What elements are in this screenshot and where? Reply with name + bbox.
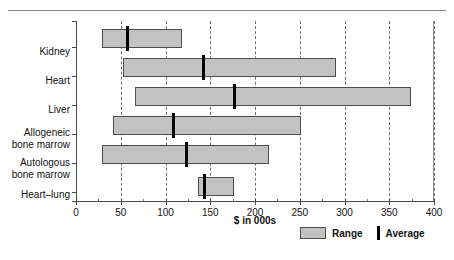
x-tick-350 [389,199,390,205]
x-tick-minor-125 [188,199,189,202]
x-tick-minor-275 [322,199,323,202]
y-tick-2 [72,76,77,77]
average-marker [126,26,129,51]
chart-figure: Kidney Heart Liver Allogeneic bone marro… [0,0,454,260]
x-tick-minor-75 [143,199,144,202]
y-label-allogeneic-line2: bone marrow [12,139,70,151]
y-label-heart-lung: Heart–lung [21,189,70,201]
range-bar [123,58,335,77]
x-tick-0 [76,199,77,205]
y-axis-category-labels: Kidney Heart Liver Allogeneic bone marro… [0,21,74,201]
x-tick-250 [300,199,301,205]
legend-average-marker [377,226,380,240]
y-tick-6 [72,192,77,193]
y-tick-3 [72,105,77,106]
plot-area: 050100150200250300350400 [76,21,434,201]
gridline-100 [166,21,167,201]
range-bar [113,116,301,135]
y-label-allogeneic-line1: Allogeneic [12,127,70,139]
x-tick-100 [166,199,167,205]
average-marker [202,55,205,80]
legend-range-label: Range [332,228,363,239]
gridline-350 [389,21,390,201]
y-axis-line [76,21,77,201]
y-label-kidney-line1: Kidney [39,46,70,57]
top-divider-rule [8,10,446,11]
x-tick-200 [255,199,256,205]
average-marker [203,174,206,199]
x-tick-minor-325 [367,199,368,202]
chart-legend: Range Average [300,226,425,240]
x-tick-minor-375 [412,199,413,202]
y-tick-4 [72,134,77,135]
x-tick-minor-25 [98,199,99,202]
y-tick-5 [72,163,77,164]
average-marker [233,84,236,109]
gridline-200 [255,21,256,201]
y-label-autologous-bone-marrow: Autologous bone marrow [12,157,70,180]
legend-average-label: Average [386,228,425,239]
average-marker [185,142,188,167]
x-tick-minor-175 [233,199,234,202]
y-tick-0 [72,21,77,22]
y-tick-1 [72,47,77,48]
y-label-heart-line1: Heart [46,75,70,86]
y-label-allogeneic-bone-marrow: Allogeneic bone marrow [12,127,70,150]
y-label-autologous-line1: Autologous [12,157,70,169]
x-tick-50 [121,199,122,205]
y-label-liver-line1: Liver [48,104,70,115]
gridline-300 [345,21,346,201]
y-label-heart-lung-line1: Heart–lung [21,189,70,200]
gridline-50 [121,21,122,201]
range-bar [135,87,411,106]
gridline-400 [434,21,435,201]
x-axis-title: $ in 000s [76,215,434,226]
y-label-autologous-line2: bone marrow [12,169,70,181]
range-bar [102,29,182,48]
legend-range-swatch [300,227,326,239]
y-label-heart: Heart [46,75,70,87]
x-tick-300 [345,199,346,205]
gridline-150 [210,21,211,201]
y-label-kidney: Kidney [39,46,70,58]
gridline-250 [300,21,301,201]
x-tick-150 [210,199,211,205]
y-label-liver: Liver [48,104,70,116]
average-marker [172,113,175,138]
x-tick-minor-225 [277,199,278,202]
x-tick-400 [434,199,435,205]
